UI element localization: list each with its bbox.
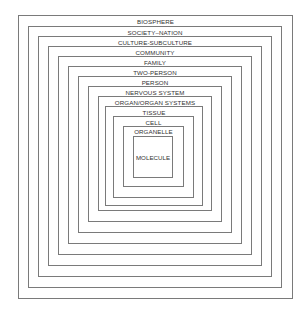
nested-systems-diagram: BIOSPHERE SOCIETY–NATION CULTURE-SUBCULT… (0, 0, 306, 311)
label-molecule: MOLECULE (134, 154, 172, 161)
label-organelle: ORGANELLE (124, 128, 183, 136)
box-molecule: MOLECULE (133, 136, 173, 178)
label-biosphere: BIOSPHERE (19, 18, 292, 26)
